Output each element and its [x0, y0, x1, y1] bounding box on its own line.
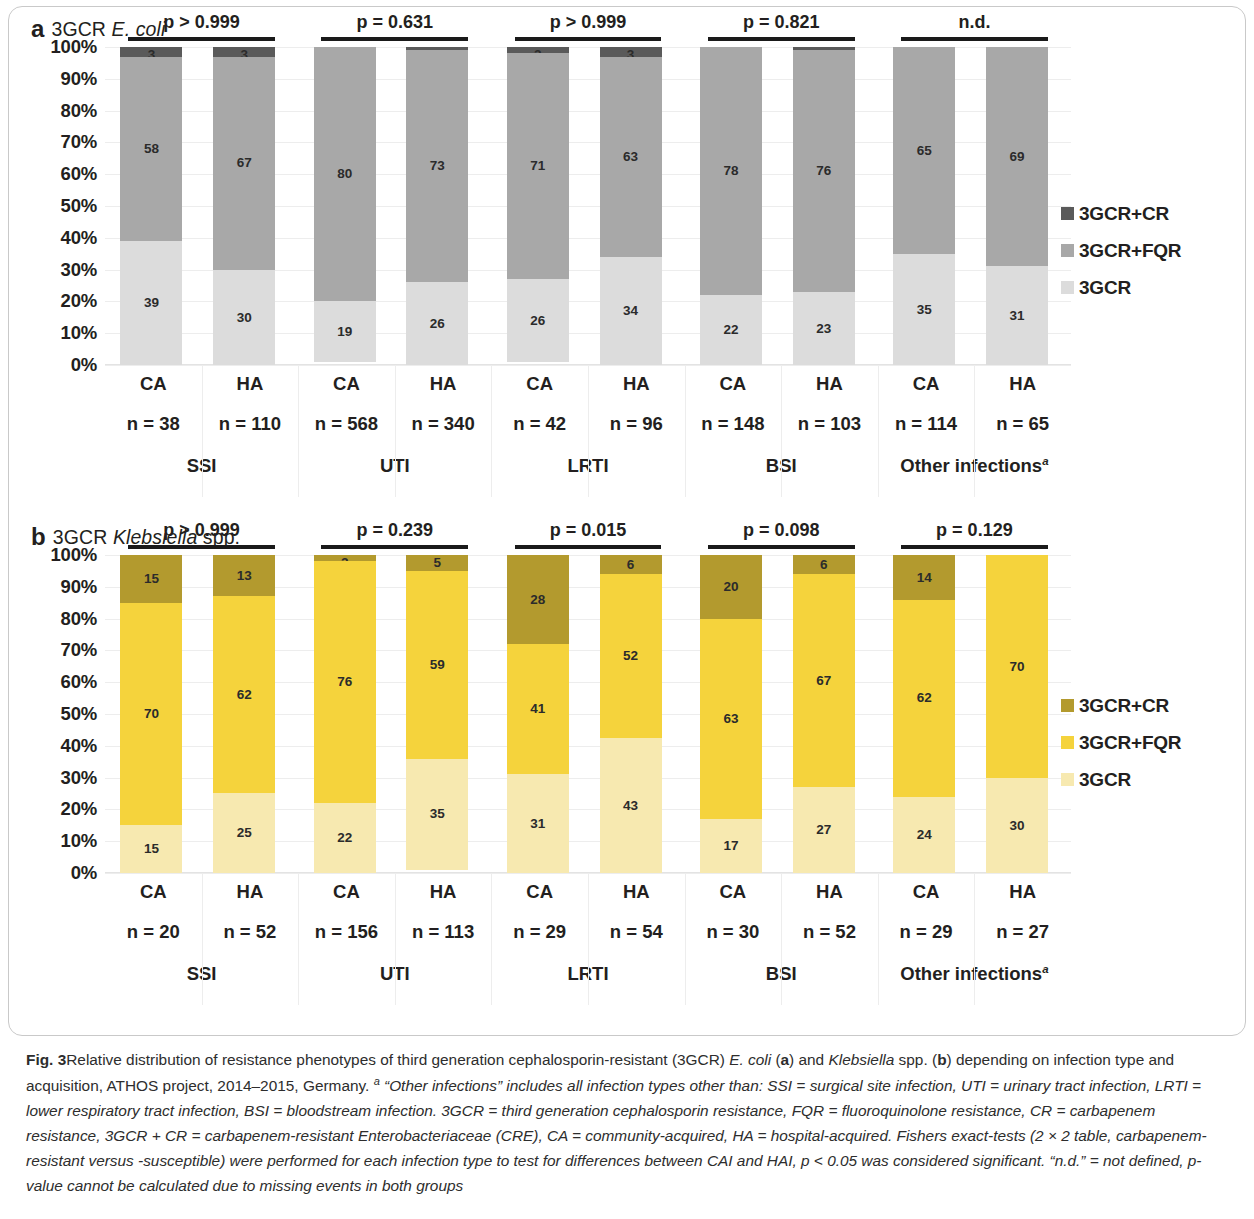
significance-bracket	[128, 545, 275, 549]
bar-segment[interactable]: 6	[600, 555, 662, 574]
bar-segment[interactable]: 67	[793, 574, 855, 787]
legend-item[interactable]: 3GCR+CR	[1061, 195, 1229, 232]
bar-segment[interactable]: 62	[893, 600, 955, 797]
bar-segment[interactable]: 34	[600, 257, 662, 365]
bar-segment[interactable]: 20	[700, 555, 762, 619]
stacked-bar[interactable]: 27126	[507, 47, 569, 365]
bar-segment[interactable]: 58	[120, 57, 182, 241]
bar-segment[interactable]: 41	[507, 644, 569, 774]
bar-segment[interactable]: 31	[507, 774, 569, 873]
legend-swatch-icon	[1061, 699, 1074, 712]
stacked-bar[interactable]: 206317	[700, 555, 762, 873]
legend-label: 3GCR	[1079, 277, 1131, 299]
legend-item[interactable]: 3GCR	[1061, 269, 1229, 306]
acquisition-label: CA	[685, 881, 782, 903]
bar-segment[interactable]: 26	[406, 282, 468, 365]
bar-segment[interactable]: 5	[406, 555, 468, 571]
bar-segment[interactable]: 63	[600, 57, 662, 257]
stacked-bar[interactable]: 36334	[600, 47, 662, 365]
y-axis-tick: 20%	[61, 290, 97, 312]
bar-segment[interactable]: 26	[507, 279, 569, 362]
legend-item[interactable]: 3GCR+FQR	[1061, 724, 1229, 761]
bar-group-ssi: p > 0.9993583936730	[105, 47, 298, 365]
bar-segment[interactable]: 3	[120, 47, 182, 57]
stacked-bar[interactable]: 7030	[986, 555, 1048, 873]
bar-segment[interactable]: 24	[893, 797, 955, 873]
bar-segment[interactable]: 73	[406, 50, 468, 282]
stacked-bar[interactable]: 136225	[213, 555, 275, 873]
stacked-bar[interactable]: 7822	[700, 47, 762, 365]
panel-a-x-axis: CAHACAHACAHACAHACAHAn = 38n = 110n = 568…	[105, 365, 1071, 497]
stacked-bar[interactable]: 17326	[406, 47, 468, 365]
bar-segment[interactable]: 23	[793, 292, 855, 365]
bar-segment[interactable]: 65	[893, 47, 955, 254]
sample-size-label: n = 30	[685, 921, 782, 943]
bar-segment[interactable]: 76	[314, 561, 376, 803]
bar-segment[interactable]: 28	[507, 555, 569, 644]
panel-b-chart-body: p > 0.999157015136225p = 0.2392762255935…	[105, 555, 1071, 873]
stacked-bar[interactable]: 27622	[314, 555, 376, 873]
legend-item[interactable]: 3GCR	[1061, 761, 1229, 798]
acquisition-label: CA	[878, 373, 975, 395]
legend-item[interactable]: 3GCR+FQR	[1061, 232, 1229, 269]
bar-segment[interactable]: 17	[700, 819, 762, 873]
bar-segment[interactable]: 15	[120, 825, 182, 873]
acquisition-label: CA	[878, 881, 975, 903]
stacked-bar[interactable]: 8019	[314, 47, 376, 365]
bar-segment[interactable]: 19	[314, 301, 376, 361]
bar-segment[interactable]: 22	[314, 803, 376, 873]
bar-segment[interactable]: 3	[213, 47, 275, 57]
stacked-bar[interactable]: 6931	[986, 47, 1048, 365]
bar-segment[interactable]: 13	[213, 555, 275, 596]
legend-item[interactable]: 3GCR+CR	[1061, 687, 1229, 724]
stacked-bar[interactable]: 284131	[507, 555, 569, 873]
x-axis-separator	[974, 365, 975, 497]
caption-klebsiella: Klebsiella	[828, 1051, 894, 1068]
bar-segment-value: 15	[144, 842, 159, 856]
sample-size-label: n = 340	[395, 413, 492, 435]
bar-segment[interactable]: 62	[213, 596, 275, 793]
bar-segment[interactable]: 30	[986, 778, 1048, 873]
bar-segment[interactable]: 27	[793, 787, 855, 873]
bar-segment[interactable]: 69	[986, 47, 1048, 266]
bar-segment[interactable]: 78	[700, 47, 762, 295]
stacked-bar[interactable]: 35839	[120, 47, 182, 365]
stacked-bar[interactable]: 6535	[893, 47, 955, 365]
x-axis-separator	[588, 365, 589, 497]
bar-segment-value: 78	[724, 164, 739, 178]
bar-segment[interactable]: 25	[213, 793, 275, 873]
significance-bracket	[901, 37, 1048, 41]
bar-segment[interactable]: 15	[120, 555, 182, 603]
bar-segment[interactable]: 43	[600, 738, 662, 873]
bar-segment[interactable]: 71	[507, 53, 569, 279]
bar-segment[interactable]: 39	[120, 241, 182, 365]
bar-segment[interactable]: 67	[213, 57, 275, 270]
stacked-bar[interactable]: 65243	[600, 555, 662, 873]
bar-segment[interactable]: 80	[314, 47, 376, 301]
bar-segment[interactable]: 70	[986, 555, 1048, 778]
bar-segment[interactable]: 3	[600, 47, 662, 57]
sample-size-label: n = 29	[491, 921, 588, 943]
bar-segment[interactable]: 70	[120, 603, 182, 826]
bar-segment[interactable]: 22	[700, 295, 762, 365]
legend-label: 3GCR+FQR	[1079, 240, 1181, 262]
bar-segment[interactable]: 6	[793, 555, 855, 574]
bar-segment[interactable]: 63	[700, 619, 762, 819]
bar-segment[interactable]: 35	[406, 759, 468, 870]
bar-group-bsi: p = 0.09820631766727	[685, 555, 878, 873]
stacked-bar[interactable]: 17623	[793, 47, 855, 365]
bar-segment[interactable]: 14	[893, 555, 955, 600]
bar-segment[interactable]: 76	[793, 50, 855, 292]
stacked-bar[interactable]: 36730	[213, 47, 275, 365]
bar-segment[interactable]: 52	[600, 574, 662, 738]
sample-size-label: n = 52	[202, 921, 299, 943]
stacked-bar[interactable]: 66727	[793, 555, 855, 873]
bar-segment[interactable]: 59	[406, 571, 468, 759]
sample-size-label: n = 42	[491, 413, 588, 435]
stacked-bar[interactable]: 55935	[406, 555, 468, 873]
bar-segment[interactable]: 35	[893, 254, 955, 365]
bar-segment[interactable]: 30	[213, 270, 275, 365]
stacked-bar[interactable]: 146224	[893, 555, 955, 873]
bar-segment[interactable]: 31	[986, 266, 1048, 365]
stacked-bar[interactable]: 157015	[120, 555, 182, 873]
